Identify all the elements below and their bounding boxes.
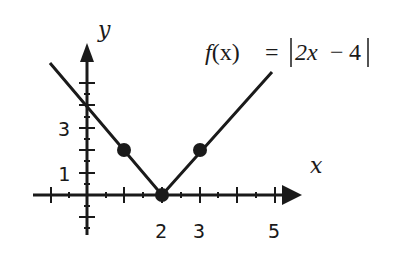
x-axis-arrow-icon bbox=[282, 185, 302, 205]
x-axis-label: x bbox=[310, 153, 323, 178]
point-vertex-2-0 bbox=[155, 188, 169, 202]
point-1-2 bbox=[117, 143, 131, 157]
function-graph: y x 2 3 5 1 3 f(x) = 2x − 4 bbox=[0, 0, 393, 257]
point-3-2 bbox=[193, 143, 207, 157]
svg-text:2x: 2x bbox=[295, 39, 318, 65]
x-tick-label-2: 2 bbox=[155, 219, 167, 243]
y-axis bbox=[79, 43, 95, 235]
x-tick-label-3: 3 bbox=[193, 219, 205, 243]
y-axis-label: y bbox=[97, 17, 111, 42]
title-equals: = bbox=[265, 39, 279, 65]
title-minus: − bbox=[330, 39, 344, 65]
title-expr: 2x bbox=[295, 39, 318, 65]
chart-title-formula: f(x) = 2x − 4 bbox=[205, 38, 368, 67]
y-axis-arrow-icon bbox=[80, 43, 94, 62]
title-const: 4 bbox=[349, 39, 361, 65]
marked-points bbox=[117, 143, 207, 202]
x-tick-label-5: 5 bbox=[268, 219, 280, 243]
svg-text:f(x): f(x) bbox=[205, 39, 240, 65]
y-tick-label-1: 1 bbox=[58, 162, 70, 186]
y-tick-label-3: 3 bbox=[58, 117, 70, 141]
title-arg: (x) bbox=[212, 39, 240, 65]
